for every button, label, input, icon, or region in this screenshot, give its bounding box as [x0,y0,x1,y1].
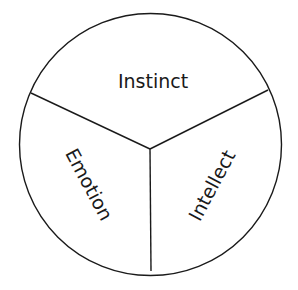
divider-bottom [150,149,151,271]
divider-right [150,90,268,149]
divider-left [31,93,150,149]
three-part-circle-diagram: Instinct Emotion Intellect [0,0,298,290]
segment-label-emotion: Emotion [61,144,117,224]
segment-label-intellect: Intellect [184,146,240,224]
segment-label-instinct: Instinct [118,70,188,92]
